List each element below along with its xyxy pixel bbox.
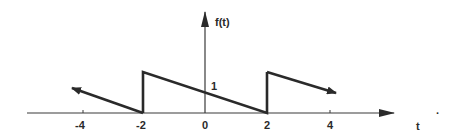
x-tick-label-0: 0 (202, 119, 208, 131)
signal-f-of-t (72, 72, 336, 113)
x-tick-label-4: 4 (327, 119, 334, 131)
x-tick-label-minus-2: -2 (136, 119, 146, 131)
trailing-dot: · (436, 107, 440, 119)
sawtooth-chart: f(t) 1 -4 -2 0 2 4 t · (0, 0, 457, 136)
x-axis-label: t (416, 120, 420, 132)
value-one-label: 1 (211, 80, 217, 92)
y-axis-label: f(t) (215, 16, 230, 28)
x-tick-label-minus-4: -4 (75, 119, 86, 131)
x-tick-label-2: 2 (264, 119, 270, 131)
